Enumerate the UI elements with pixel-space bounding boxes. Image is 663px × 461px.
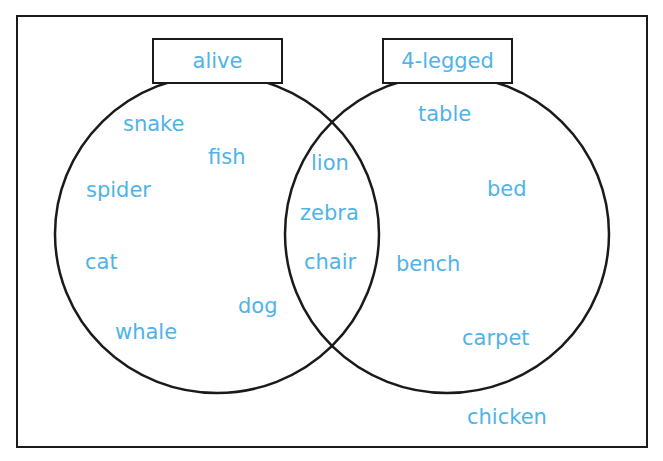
set-label-alive: alive [152, 38, 283, 84]
item-bench: bench [396, 254, 460, 275]
item-spider: spider [86, 180, 151, 201]
item-bed: bed [487, 179, 527, 200]
item-table: table [418, 104, 471, 125]
set-label-4-legged: 4-legged [382, 38, 513, 84]
set-label-alive-text: alive [193, 49, 243, 73]
item-fish: fish [208, 147, 245, 168]
set-label-4-legged-text: 4-legged [401, 49, 494, 73]
item-lion: lion [311, 153, 349, 174]
item-dog: dog [238, 296, 278, 317]
item-cat: cat [85, 252, 118, 273]
item-zebra: zebra [300, 203, 359, 224]
item-carpet: carpet [462, 328, 530, 349]
item-whale: whale [115, 322, 177, 343]
venn-circles [0, 0, 663, 461]
item-snake: snake [123, 114, 184, 135]
item-chicken: chicken [467, 407, 547, 428]
item-chair: chair [304, 252, 356, 273]
